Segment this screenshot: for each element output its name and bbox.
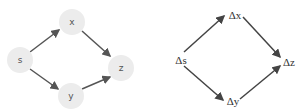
right-diagram: Δs Δx Δz Δy — [175, 9, 295, 107]
node-x-label: x — [69, 17, 75, 27]
node-y-label: y — [68, 91, 74, 101]
node-delta-x: Δx — [229, 9, 242, 21]
edge-ds-dx — [184, 16, 224, 52]
node-delta-y: Δy — [227, 95, 240, 107]
edge-y-z — [82, 77, 110, 89]
node-s-label: s — [18, 55, 23, 65]
edge-x-z — [82, 31, 110, 56]
node-z-label: z — [119, 63, 124, 73]
node-delta-s: Δs — [175, 54, 186, 66]
causal-graphs: s x z y Δs Δx Δz Δy — [0, 0, 303, 109]
edge-ds-dy — [184, 66, 223, 100]
edge-s-x — [30, 30, 59, 52]
node-delta-z: Δz — [283, 56, 295, 68]
edge-s-y — [30, 69, 58, 89]
edge-dx-dz — [243, 17, 280, 57]
left-diagram: s x z y — [7, 9, 134, 109]
edge-dy-dz — [240, 66, 280, 99]
